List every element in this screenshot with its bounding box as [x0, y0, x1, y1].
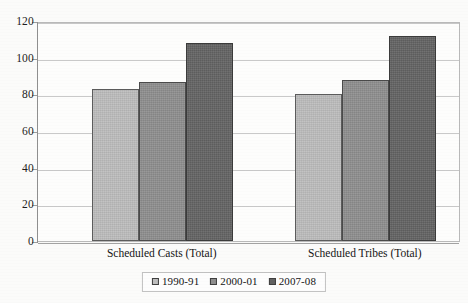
bar-1990-91-scheduled-casts-total- — [92, 89, 139, 241]
y-axis-line — [37, 22, 38, 243]
y-tick-label-20: 20 — [0, 199, 34, 211]
y-tick-label-40: 40 — [0, 163, 34, 175]
legend-item-2000-01[interactable]: 2000-01 — [210, 276, 257, 287]
y-tick-label-80: 80 — [0, 89, 34, 101]
y-tick-label-0: 0 — [0, 236, 34, 248]
y-tick-label-60: 60 — [0, 126, 34, 138]
y-tick-label-100: 100 — [0, 53, 34, 65]
bar-2007-08-scheduled-tribes-total- — [389, 36, 436, 241]
legend-swatch-icon-2007-08 — [269, 278, 276, 285]
legend-swatch-icon-2000-01 — [210, 278, 217, 285]
chart-legend: 1990-912000-012007-08 — [142, 272, 326, 292]
bar-2007-08-scheduled-casts-total- — [186, 43, 233, 241]
legend-item-2007-08[interactable]: 2007-08 — [269, 276, 316, 287]
bar-chart: 020406080100120 Scheduled Casts (Total)S… — [0, 0, 468, 303]
legend-label-1990-91: 1990-91 — [162, 276, 199, 287]
category-label-1: Scheduled Casts (Total) — [72, 248, 252, 260]
legend-label-2007-08: 2007-08 — [279, 276, 316, 287]
gridline-120 — [38, 23, 459, 24]
plot-area — [37, 22, 460, 242]
category-label-2: Scheduled Tribes (Total) — [275, 248, 455, 260]
legend-swatch-icon-1990-91 — [152, 278, 159, 285]
bar-2000-01-scheduled-casts-total- — [139, 82, 186, 242]
bar-2000-01-scheduled-tribes-total- — [342, 80, 389, 241]
bar-1990-91-scheduled-tribes-total- — [295, 94, 342, 241]
gridline-0 — [38, 243, 459, 244]
legend-label-2000-01: 2000-01 — [220, 276, 257, 287]
y-tick-label-120: 120 — [0, 16, 34, 28]
legend-item-1990-91[interactable]: 1990-91 — [152, 276, 199, 287]
